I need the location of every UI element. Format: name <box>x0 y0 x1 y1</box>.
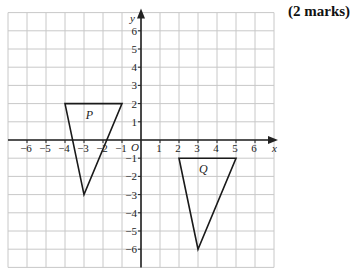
y-tick-label: 1 <box>132 116 138 128</box>
origin-label: O <box>131 141 139 153</box>
y-tick-label: 2 <box>132 98 138 110</box>
y-tick-label: −6 <box>125 243 137 255</box>
y-tick-label: 6 <box>132 25 138 37</box>
x-tick-label: −5 <box>39 142 51 154</box>
y-tick-label: −5 <box>125 225 137 237</box>
x-tick-label: 6 <box>251 142 257 154</box>
y-tick-label: 4 <box>132 61 138 73</box>
x-tick-label: 4 <box>213 142 219 154</box>
y-tick-label: 5 <box>132 43 138 55</box>
coordinate-grid-diagram: −6−5−4−3−2−1123456654321−1−2−3−4−5−6OxyP… <box>0 0 351 271</box>
axes <box>8 9 278 268</box>
y-tick-label: −4 <box>125 207 137 219</box>
triangle-p <box>65 104 122 195</box>
x-tick-label: 1 <box>156 142 162 154</box>
axis-labels: −6−5−4−3−2−1123456654321−1−2−3−4−5−6OxyP… <box>20 12 277 256</box>
x-tick-label: 5 <box>232 142 238 154</box>
y-tick-label: 3 <box>132 79 138 91</box>
y-tick-label: −2 <box>125 170 137 182</box>
x-axis-label: x <box>271 142 277 154</box>
y-axis-label: y <box>129 12 135 24</box>
shape-label-q: Q <box>199 162 208 176</box>
y-axis-arrow-icon <box>137 9 145 19</box>
x-tick-label: −6 <box>20 142 32 154</box>
y-tick-label: −3 <box>125 189 137 201</box>
shape-label-p: P <box>85 108 94 122</box>
y-tick-label: −1 <box>125 152 137 164</box>
x-tick-label: −3 <box>77 142 89 154</box>
x-tick-label: −2 <box>96 142 108 154</box>
x-tick-label: 2 <box>175 142 181 154</box>
x-tick-label: 3 <box>194 142 200 154</box>
x-tick-label: −4 <box>58 142 70 154</box>
